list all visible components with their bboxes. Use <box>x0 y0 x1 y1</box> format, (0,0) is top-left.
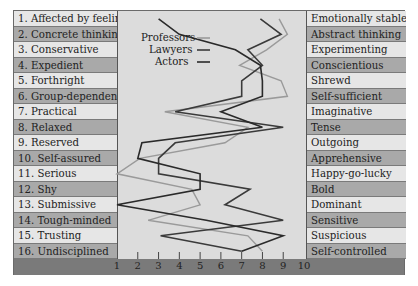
legend-lawyers-label: Lawyers <box>149 44 192 55</box>
plot-area <box>14 11 406 276</box>
legend-actors-label: Actors <box>155 56 188 67</box>
legend-professors-label: Professors <box>141 32 195 43</box>
series-line-actors <box>117 19 283 252</box>
chart-frame: 1. Affected by feelings2. Concrete think… <box>13 10 405 275</box>
